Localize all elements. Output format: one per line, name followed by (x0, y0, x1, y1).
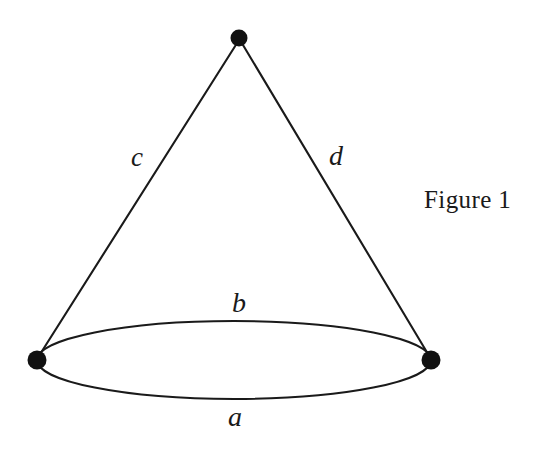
base-ellipse (37, 321, 431, 399)
cone-diagram-svg (0, 0, 534, 455)
left-vertex-dot (28, 351, 47, 370)
figure-canvas: c d b a Figure 1 (0, 0, 534, 455)
slant-line-left-c (37, 40, 239, 359)
edge-label-c: c (131, 144, 143, 171)
edge-label-a: a (228, 403, 242, 431)
slant-line-right-d (240, 40, 431, 359)
edge-label-d: d (329, 142, 343, 170)
figure-caption: Figure 1 (424, 186, 511, 214)
right-vertex-dot (422, 351, 441, 370)
apex-vertex-dot (231, 30, 248, 47)
edge-label-b: b (232, 289, 246, 317)
